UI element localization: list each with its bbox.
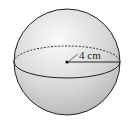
sphere-diagram: 4 cm (0, 0, 130, 127)
center-point (65, 60, 68, 63)
radius-label: 4 cm (79, 49, 101, 61)
